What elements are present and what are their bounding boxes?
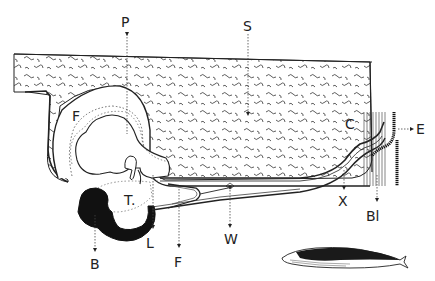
label-c: C xyxy=(345,116,355,132)
label-x: X xyxy=(338,193,348,209)
label-e: E xyxy=(416,121,425,137)
label-f-upper: F xyxy=(72,108,80,124)
label-f-lower: F xyxy=(174,254,182,270)
label-bl: Bl xyxy=(366,208,380,224)
tympanic-bulla xyxy=(78,188,155,241)
label-b: B xyxy=(90,256,100,272)
whale-silhouette xyxy=(282,248,408,269)
label-s: S xyxy=(243,18,252,34)
fat-tongue xyxy=(168,184,200,208)
label-l: L xyxy=(146,235,154,251)
label-w: W xyxy=(224,231,238,247)
label-t: T. xyxy=(123,192,135,208)
whale-ear-diagram: P S F C E T. L B F W X Bl xyxy=(0,0,435,281)
epidermis xyxy=(372,112,394,156)
label-p: P xyxy=(121,14,129,30)
